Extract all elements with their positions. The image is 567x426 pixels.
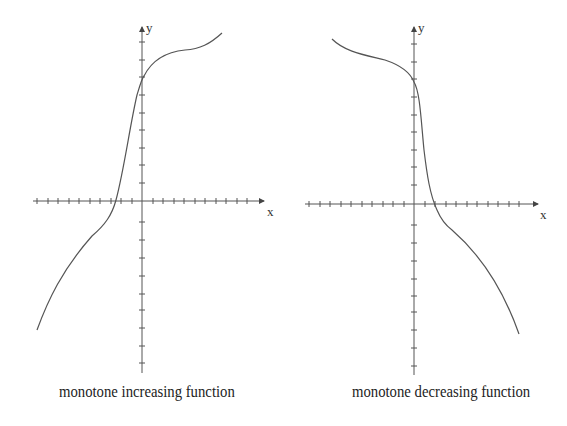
figure-canvas: y x y x [0,0,567,426]
y-axis-label: y [418,20,425,35]
increasing-caption: monotone increasing function [59,383,235,401]
y-axis-label: y [146,20,153,35]
increasing-curve [37,33,222,330]
decreasing-curve [332,39,519,334]
increasing-function-plot: y x [33,20,274,373]
x-axis-label: x [267,204,274,219]
decreasing-caption: monotone decreasing function [352,383,530,401]
decreasing-function-plot: y x [305,20,547,375]
x-axis-label: x [540,207,547,222]
